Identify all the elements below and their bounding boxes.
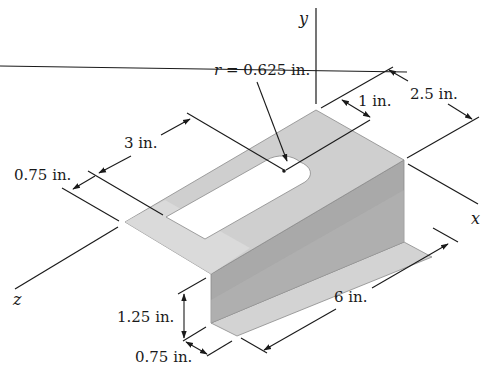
- dim-6in-label: 6 in.: [334, 288, 368, 306]
- ext-line-wall-top: [178, 278, 206, 294]
- ext-line-length-back: [433, 228, 458, 242]
- dim-3in-arrow-left: [99, 156, 131, 173]
- ext-line-slot-front: [88, 171, 163, 215]
- dim-2-5in-arrow-a: [0, 66, 407, 72]
- z-axis-label: z: [12, 290, 22, 309]
- dim-0-75in-slot-arrow: [73, 176, 95, 189]
- ext-line-length-front: [241, 338, 267, 353]
- dim-2-5in-label: 2.5 in.: [410, 85, 458, 103]
- ext-line-plate-right: [407, 117, 479, 158]
- dim-1-25in-label: 1.25 in.: [117, 308, 174, 326]
- y-axis-label: y: [298, 9, 309, 28]
- dim-0-75in-slot-label: 0.75 in.: [14, 166, 71, 184]
- dim-0-75in-flange-label: 0.75 in.: [135, 348, 192, 366]
- ext-line-flange-front: [207, 341, 232, 356]
- dim-3in-arrow-right: [161, 119, 190, 135]
- z-axis: [15, 227, 118, 289]
- x-axis-label: x: [471, 209, 480, 228]
- dim-3in-label: 3 in.: [124, 134, 158, 152]
- ext-line-wall-bottom: [183, 327, 206, 341]
- ext-line-plate-left: [62, 188, 119, 221]
- x-axis: [408, 164, 478, 204]
- dim-1in-label: 1 in.: [358, 92, 392, 110]
- dim-2-5in-arrow-right: [448, 104, 472, 119]
- bracket-diagram: y x z r = 0.625 in. 1 in. 2.5 in. 3 in. …: [0, 0, 498, 377]
